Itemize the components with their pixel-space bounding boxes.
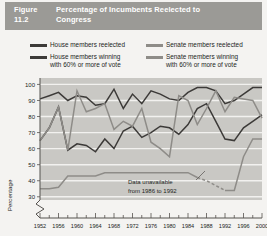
svg-text:2000: 2000 (256, 223, 267, 229)
svg-text:80: 80 (28, 114, 35, 120)
legend-swatch-senate-winning (146, 56, 163, 59)
svg-text:70: 70 (28, 130, 35, 136)
svg-text:50: 50 (28, 162, 35, 168)
svg-text:30: 30 (28, 194, 35, 200)
legend-label-house-winning: House members winning with 60% or more o… (50, 53, 121, 69)
svg-text:1980: 1980 (163, 223, 175, 229)
y-axis-label: Percentage (6, 166, 13, 226)
legend-label-senate-reelected: Senate members reelected (166, 41, 243, 49)
annotation-line-2: from 1986 to 1992 (128, 188, 177, 194)
legend-swatch-house-winning (30, 56, 47, 59)
svg-text:1964: 1964 (89, 223, 101, 229)
legend-swatch-house-reelected (30, 44, 47, 47)
figure-number: Figure 11.2 (14, 5, 54, 25)
svg-text:1952: 1952 (34, 223, 46, 229)
svg-text:1984: 1984 (182, 223, 194, 229)
line-chart: 30405060708090100 1952195619601964196819… (0, 74, 267, 236)
svg-text:1960: 1960 (71, 223, 83, 229)
legend-item-senate-winning: Senate members winning with 60% or more … (146, 53, 238, 69)
y-axis-ticks: 30405060708090100 (25, 82, 40, 200)
svg-text:100: 100 (25, 82, 36, 88)
x-axis-ticks: 1952195619601964196819721976198019841988… (34, 223, 267, 229)
chart-legend: House members reelected House members wi… (0, 40, 267, 74)
chart-plot-area: Percentage 30405060708090100 19521956196… (0, 74, 267, 236)
page-title: Percentage of Incumbents Reelected to Co… (56, 5, 236, 25)
svg-text:1956: 1956 (52, 223, 64, 229)
legend-swatch-senate-reelected (146, 44, 163, 47)
svg-text:60: 60 (28, 146, 35, 152)
annotation-line-1: Data unavailable (128, 179, 173, 185)
legend-item-house-reelected: House members reelected (30, 41, 125, 49)
x-axis-tick-marks (40, 213, 262, 218)
legend-label-house-reelected: House members reelected (50, 41, 125, 49)
svg-text:1996: 1996 (237, 223, 249, 229)
svg-text:1968: 1968 (108, 223, 120, 229)
figure-container: Figure 11.2 Percentage of Incumbents Ree… (0, 0, 267, 236)
svg-text:40: 40 (28, 178, 35, 184)
svg-text:90: 90 (28, 98, 35, 104)
svg-text:1988: 1988 (200, 223, 212, 229)
svg-text:1972: 1972 (126, 223, 138, 229)
legend-item-senate-reelected: Senate members reelected (146, 41, 243, 49)
legend-label-senate-winning: Senate members winning with 60% or more … (166, 53, 238, 69)
svg-text:1976: 1976 (145, 223, 157, 229)
svg-text:1992: 1992 (219, 223, 231, 229)
legend-item-house-winning: House members winning with 60% or more o… (30, 53, 121, 69)
figure-title-bar: Figure 11.2 Percentage of Incumbents Ree… (5, 2, 262, 30)
